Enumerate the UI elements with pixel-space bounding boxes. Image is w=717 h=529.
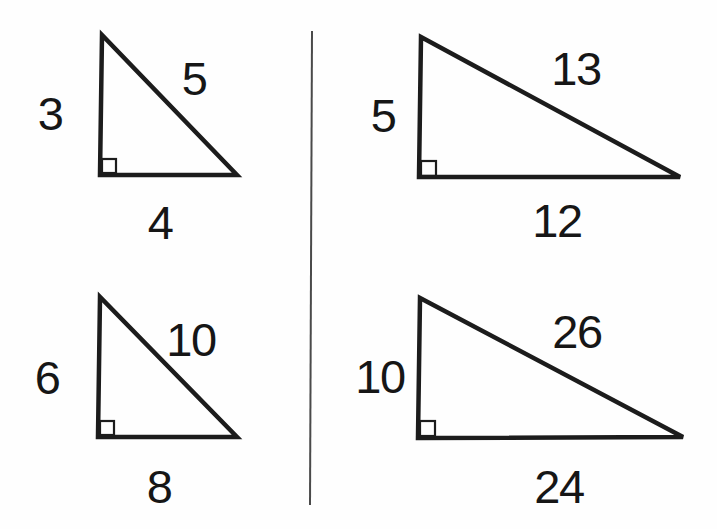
hypotenuse-label: 10 <box>166 313 216 366</box>
triangle-3-4-5: 3 5 4 <box>38 35 237 249</box>
triangle-outline <box>419 37 680 177</box>
left-leg-label: 10 <box>355 350 405 403</box>
hypotenuse-label: 13 <box>551 42 601 95</box>
divider-line <box>310 31 312 505</box>
triangles-svg: 3 5 4 5 13 12 6 10 8 10 26 24 <box>0 0 717 529</box>
base-label: 8 <box>147 460 172 513</box>
left-leg-label: 5 <box>371 89 396 142</box>
triangle-5-12-13: 5 13 12 <box>371 37 680 247</box>
base-label: 12 <box>532 194 581 247</box>
base-label: 24 <box>534 460 584 513</box>
left-leg-label: 3 <box>38 87 63 140</box>
right-angle-marker <box>420 421 435 436</box>
left-leg-label: 6 <box>35 351 60 404</box>
right-angle-marker <box>100 421 114 435</box>
hypotenuse-label: 26 <box>552 305 602 358</box>
triangle-outline <box>100 35 237 175</box>
triangles-figure: 3 5 4 5 13 12 6 10 8 10 26 24 <box>0 0 717 529</box>
right-angle-marker <box>421 161 436 176</box>
hypotenuse-label: 5 <box>182 52 207 105</box>
right-angle-marker <box>102 159 116 173</box>
triangle-10-24-26: 10 26 24 <box>355 298 683 513</box>
triangle-outline <box>418 298 683 438</box>
triangle-6-8-10: 6 10 8 <box>35 297 237 513</box>
base-label: 4 <box>148 196 173 249</box>
